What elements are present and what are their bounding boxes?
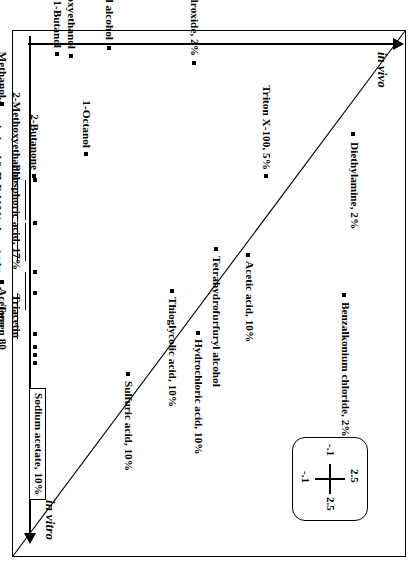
axis-scale-inset: 2.5 -.1 -.1 2.5 xyxy=(292,437,368,521)
rotated-figure-container: in vitro in vivo 2.5 -.1 -.1 2.5 xyxy=(0,0,418,570)
data-point xyxy=(351,132,355,136)
y-axis-title: in vivo xyxy=(374,52,390,88)
boxed-label-sodium-acetate: Sodium acetate, 10% xyxy=(29,388,46,500)
point-label-allyl-alcohol: Allyl alcohol xyxy=(104,0,115,40)
inset-horizontal-tick xyxy=(329,464,331,494)
point-label-butoxyethanol: 2-Butoxyethanol xyxy=(66,0,77,49)
point-label-thioglycolic: Thioglycolic acid, 10% xyxy=(167,297,178,407)
data-point xyxy=(33,291,37,295)
data-point xyxy=(33,221,37,225)
point-label-acetic-acid: Acetic acid, 10% xyxy=(244,261,255,342)
inset-y-min-label: -.1 xyxy=(300,471,312,483)
x-axis-title: in vitro xyxy=(42,500,58,540)
data-point xyxy=(342,293,346,297)
data-point xyxy=(84,152,88,156)
data-point xyxy=(192,61,196,65)
point-label-benzalkonium: Benzalkonium chloride, 2% xyxy=(340,302,351,437)
leader-line xyxy=(25,180,26,220)
data-point xyxy=(33,178,37,182)
point-label-triacetin: Triacetin xyxy=(11,246,22,338)
point-label-diethylamine: Diethylamine, 2% xyxy=(349,142,360,229)
right-arrow-icon xyxy=(25,533,37,544)
point-label-butanone: 2-Butanone xyxy=(29,104,40,170)
data-point xyxy=(33,345,37,349)
data-point xyxy=(33,270,37,274)
point-label-ethoxyethoxyethanol: 2-(2-Ethoxyethoxy)ethanol xyxy=(0,120,3,290)
data-point xyxy=(107,46,111,50)
data-point xyxy=(246,253,250,257)
data-point xyxy=(196,331,200,335)
point-label-tween80: Tween 80 xyxy=(0,270,8,350)
data-point xyxy=(126,372,130,376)
point-label-sodium-hydroxide: Sodium hydroxide, 2% xyxy=(189,0,200,56)
leader-line xyxy=(25,272,26,310)
point-label-octanol: 1-Octanol xyxy=(81,96,92,148)
point-label-triton: Triton X-100, 5% xyxy=(261,80,272,170)
up-arrow-icon xyxy=(393,38,404,50)
data-point xyxy=(33,332,37,336)
point-label-butanol: 1-Butanol xyxy=(52,0,63,48)
point-label-sulfuric: Sulfuric acid, 10% xyxy=(123,381,134,471)
data-point xyxy=(33,361,37,365)
inset-x-max-label: 2.5 xyxy=(325,497,337,511)
data-point xyxy=(55,52,59,56)
data-point xyxy=(214,247,218,251)
leader-line xyxy=(25,223,26,261)
point-label-thf-alcohol: Tetrahydrofurfuryl alcohol xyxy=(211,256,222,387)
inset-y-max-label: 2.5 xyxy=(349,469,361,483)
scatter-plot: in vitro in vivo 2.5 -.1 -.1 2.5 xyxy=(0,0,418,570)
point-label-hydrochloric: Hydrochloric acid, 10% xyxy=(193,339,204,455)
inset-x-min-label: -.1 xyxy=(325,444,337,456)
data-point xyxy=(170,289,174,293)
y-axis-line xyxy=(28,43,393,45)
data-point xyxy=(69,54,73,58)
data-point xyxy=(33,353,37,357)
data-point xyxy=(264,174,268,178)
